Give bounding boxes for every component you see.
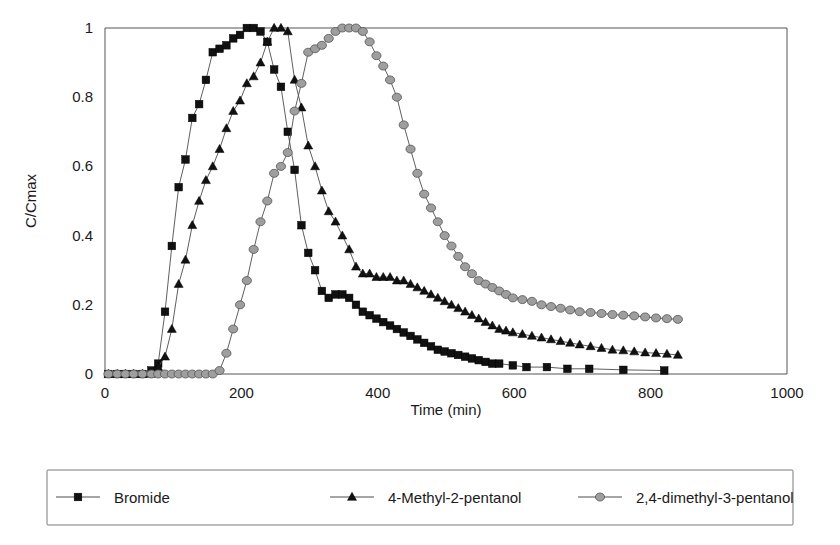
legend-entries: Bromide4-Methyl-2-pentanol2,4-dimethyl-3…	[56, 489, 794, 506]
data-point-circle	[433, 218, 442, 226]
data-point-circle	[508, 294, 517, 302]
x-tick-label: 200	[229, 384, 254, 401]
figure-background	[0, 0, 840, 545]
data-point-circle	[556, 304, 565, 312]
data-point-circle	[270, 169, 279, 177]
data-point-circle	[290, 107, 299, 115]
data-point-square	[468, 355, 476, 363]
data-point-circle	[358, 27, 367, 35]
data-point-square	[441, 348, 449, 356]
data-point-square	[195, 100, 203, 108]
chart-canvas: 00.20.40.60.81 02004006008001000 C/Cmax …	[0, 0, 840, 545]
data-point-circle	[651, 314, 660, 322]
data-point-square	[311, 266, 319, 274]
y-tick-label: 0.4	[72, 227, 93, 244]
data-point-circle	[406, 145, 415, 153]
data-point-circle	[546, 303, 555, 311]
data-point-square	[523, 363, 531, 371]
data-point-circle	[129, 370, 138, 378]
data-point-square	[448, 349, 456, 357]
data-point-circle	[138, 370, 147, 378]
x-tick-label: 0	[101, 384, 109, 401]
data-point-square	[379, 318, 387, 326]
data-point-square	[236, 31, 244, 39]
data-point-circle	[276, 162, 285, 170]
data-point-circle	[608, 310, 617, 318]
data-point-square	[352, 301, 360, 309]
data-point-circle	[440, 232, 449, 240]
data-point-circle	[256, 218, 265, 226]
x-tick-label: 800	[638, 384, 663, 401]
data-point-circle	[454, 252, 463, 260]
data-point-circle	[235, 301, 244, 309]
data-point-square	[564, 365, 572, 373]
data-point-circle	[597, 309, 606, 317]
y-axis-title: C/Cmax	[22, 173, 39, 228]
data-point-square	[182, 156, 190, 164]
data-point-circle	[630, 312, 639, 320]
y-tick-label: 0	[85, 365, 93, 382]
legend-label: 4-Methyl-2-pentanol	[388, 489, 521, 506]
data-point-square	[660, 367, 668, 375]
data-point-square	[482, 358, 490, 366]
data-point-circle	[324, 34, 333, 42]
data-point-square	[585, 365, 593, 373]
data-point-square	[250, 24, 258, 32]
data-point-circle	[379, 62, 388, 70]
data-point-square	[325, 294, 333, 302]
data-point-square	[407, 332, 415, 340]
data-point-circle	[619, 311, 628, 319]
data-point-square	[393, 325, 401, 333]
data-point-circle	[222, 349, 231, 357]
data-point-square	[270, 66, 278, 74]
data-point-square	[454, 351, 462, 359]
x-tick-label: 600	[502, 384, 527, 401]
data-point-circle	[317, 41, 326, 49]
data-point-square	[414, 336, 422, 344]
y-tick-label: 0.6	[72, 157, 93, 174]
data-point-circle	[662, 315, 671, 323]
data-point-square	[257, 28, 265, 36]
data-point-square	[434, 346, 442, 354]
y-tick-label: 0.8	[72, 88, 93, 105]
data-point-circle	[263, 197, 272, 205]
data-point-square	[620, 366, 628, 374]
data-point-square	[427, 343, 435, 351]
data-point-circle	[595, 493, 604, 501]
data-point-square	[202, 76, 210, 84]
data-point-circle	[426, 204, 435, 212]
data-point-circle	[467, 270, 476, 278]
data-point-square	[386, 322, 394, 330]
data-point-square	[339, 291, 347, 299]
x-tick-label: 1000	[770, 384, 803, 401]
data-point-square	[318, 287, 326, 295]
data-point-circle	[297, 79, 306, 87]
data-point-circle	[586, 308, 595, 316]
data-point-square	[400, 329, 408, 337]
data-point-square	[373, 315, 381, 323]
data-point-square	[161, 308, 169, 316]
data-point-circle	[385, 76, 394, 84]
data-point-square	[188, 114, 196, 122]
data-point-square	[243, 24, 251, 32]
data-point-square	[475, 356, 483, 364]
data-point-square	[291, 166, 299, 174]
data-point-square	[420, 339, 428, 347]
data-point-circle	[283, 149, 292, 157]
data-point-square	[74, 493, 82, 501]
data-point-square	[277, 83, 285, 91]
data-point-square	[543, 363, 551, 371]
legend-label: 2,4-dimethyl-3-pentanol	[636, 489, 794, 506]
y-tick-label: 1	[85, 19, 93, 36]
data-point-circle	[575, 308, 584, 316]
data-point-square	[304, 249, 312, 257]
data-point-circle	[673, 315, 682, 323]
x-tick-label: 400	[365, 384, 390, 401]
data-point-circle	[527, 297, 536, 305]
data-point-square	[489, 360, 497, 368]
data-point-circle	[365, 38, 374, 46]
data-point-circle	[537, 301, 546, 309]
data-point-circle	[447, 242, 456, 250]
data-point-square	[168, 242, 176, 250]
data-point-square	[495, 360, 503, 368]
